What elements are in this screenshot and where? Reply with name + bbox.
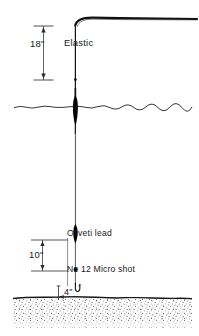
oliveti-lead-label: Oliveti lead	[67, 229, 112, 238]
pole-tip-group	[75, 18, 197, 27]
hook	[75, 283, 80, 291]
dimension-label-4-inch: 4"	[64, 288, 73, 297]
seabed	[13, 297, 192, 330]
dimension-18-inch	[34, 26, 77, 81]
elastic-label: Elastic	[64, 38, 93, 48]
dimension-label-18-inch: 18"	[30, 39, 45, 49]
dimension-10-inch	[31, 238, 68, 286]
float	[73, 88, 78, 134]
diagram-canvas	[0, 0, 199, 336]
fishing-rig-diagram: 18" Elastic Oliveti lead No 12 Micro sho…	[0, 0, 199, 336]
dimension-label-10-inch: 10"	[29, 250, 44, 260]
water-surface-line	[14, 104, 192, 112]
micro-shot-label: No 12 Micro shot	[67, 265, 135, 274]
